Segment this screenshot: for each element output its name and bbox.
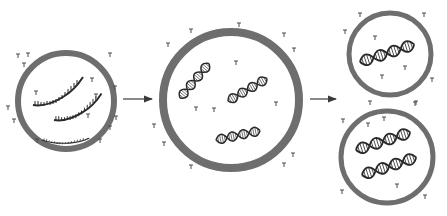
daughter-protocell-top <box>343 13 434 105</box>
membrane-ring <box>163 32 299 168</box>
membrane-ring <box>18 53 114 149</box>
diagram-canvas <box>0 0 447 216</box>
daughter-protocell-bottom <box>340 102 433 203</box>
membrane-ring <box>341 111 433 203</box>
protocell-replication-diagram <box>0 0 447 216</box>
protocell-stage-2 <box>152 23 299 169</box>
protocell-stage-1 <box>6 53 118 152</box>
